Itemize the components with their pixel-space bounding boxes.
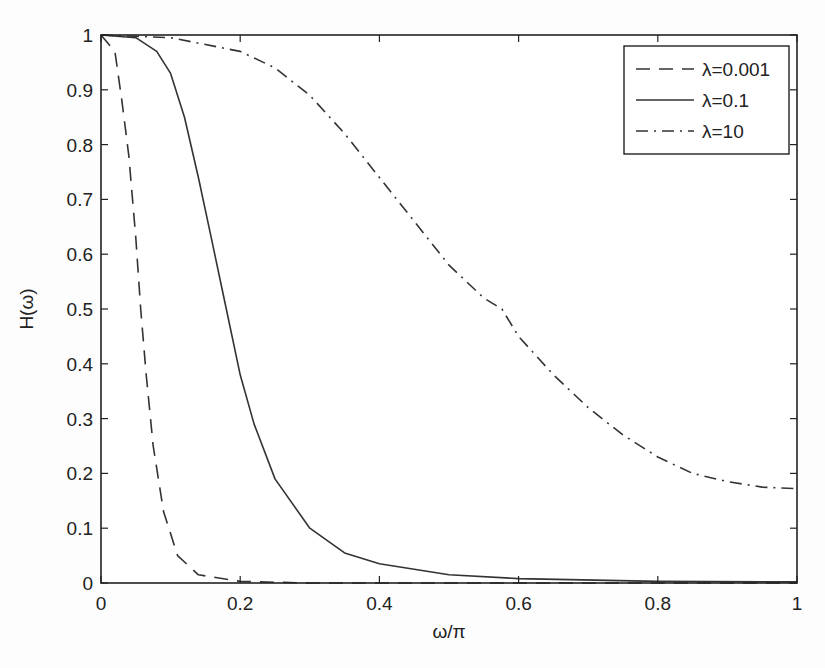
y-tick-label: 0.1 (67, 518, 93, 539)
x-tick-label: 0.8 (645, 593, 671, 614)
y-tick-label: 0.9 (67, 80, 93, 101)
legend-label: λ=10 (702, 121, 744, 142)
y-tick-label: 0.8 (67, 135, 93, 156)
x-tick-label: 0.4 (366, 593, 393, 614)
frequency-response-chart: 00.20.40.60.8100.10.20.30.40.50.60.70.80… (0, 0, 825, 668)
x-tick-label: 1 (792, 593, 803, 614)
y-tick-label: 0.5 (67, 299, 93, 320)
y-tick-label: 0.3 (67, 409, 93, 430)
y-tick-label: 0.2 (67, 463, 93, 484)
y-axis-label: H(ω) (16, 288, 37, 329)
y-tick-label: 0.4 (67, 354, 94, 375)
x-axis-label: ω/π (432, 621, 465, 642)
legend-label: λ=0.1 (702, 90, 749, 111)
x-tick-label: 0.6 (505, 593, 531, 614)
y-tick-label: 0.6 (67, 244, 93, 265)
legend: λ=0.001λ=0.1λ=10 (624, 46, 789, 154)
legend-label: λ=0.001 (702, 59, 770, 80)
x-tick-label: 0.2 (227, 593, 253, 614)
y-tick-label: 0 (82, 573, 93, 594)
y-tick-label: 0.7 (67, 189, 93, 210)
y-tick-label: 1 (82, 25, 93, 46)
x-tick-label: 0 (96, 593, 107, 614)
